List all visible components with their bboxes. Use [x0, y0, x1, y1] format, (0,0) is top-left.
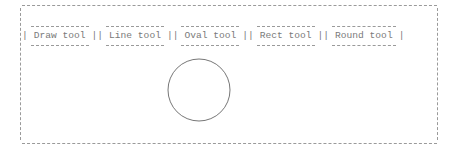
round-tool-button[interactable]: Round tool: [329, 24, 399, 48]
frame-top-border: [22, 5, 437, 6]
frame-bottom-border: [22, 143, 437, 144]
line-tool-button[interactable]: Line tool: [103, 24, 167, 48]
tool-toolbar: | Draw tool || Line tool || Oval tool ||…: [22, 24, 404, 48]
frame-right-border: [437, 8, 438, 140]
separator: |: [399, 24, 405, 48]
draw-tool-button[interactable]: Draw tool: [28, 24, 92, 48]
rect-tool-button[interactable]: Rect tool: [254, 24, 318, 48]
frame-left-border: [20, 8, 21, 140]
oval-tool-button[interactable]: Oval tool: [178, 24, 242, 48]
drawing-canvas[interactable]: [160, 52, 240, 132]
circle-shape[interactable]: [168, 59, 230, 121]
